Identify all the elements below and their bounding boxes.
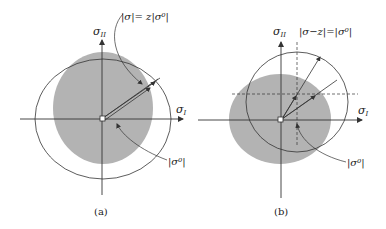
caption-b: (b) <box>274 206 288 217</box>
annotation-bottom-b: |σ⁰| <box>347 157 365 169</box>
x-axis-label-b: σI <box>358 104 369 118</box>
panel-b: σII σI |σ−z|=|σ⁰| |σ⁰| (b) <box>198 25 369 217</box>
annotation-top-b: |σ−z|=|σ⁰| <box>299 26 352 38</box>
annotation-bottom-a: |σ⁰| <box>168 156 186 168</box>
diagram-canvas: σII σI |σ|= z|σ⁰| |σ⁰| (a) σII σI |σ−z|=… <box>0 0 386 229</box>
annotation-top-a: |σ|= z|σ⁰| <box>121 11 169 23</box>
panel-a: σII σI |σ|= z|σ⁰| |σ⁰| (a) <box>20 11 187 217</box>
x-axis-label-a: σI <box>176 103 187 117</box>
y-axis-label-b: σII <box>273 25 286 39</box>
caption-a: (a) <box>94 206 108 217</box>
origin-marker-a <box>100 116 105 121</box>
y-axis-label-a: σII <box>93 25 106 39</box>
shaded-region-a <box>53 52 153 164</box>
origin-marker-b <box>278 117 283 122</box>
